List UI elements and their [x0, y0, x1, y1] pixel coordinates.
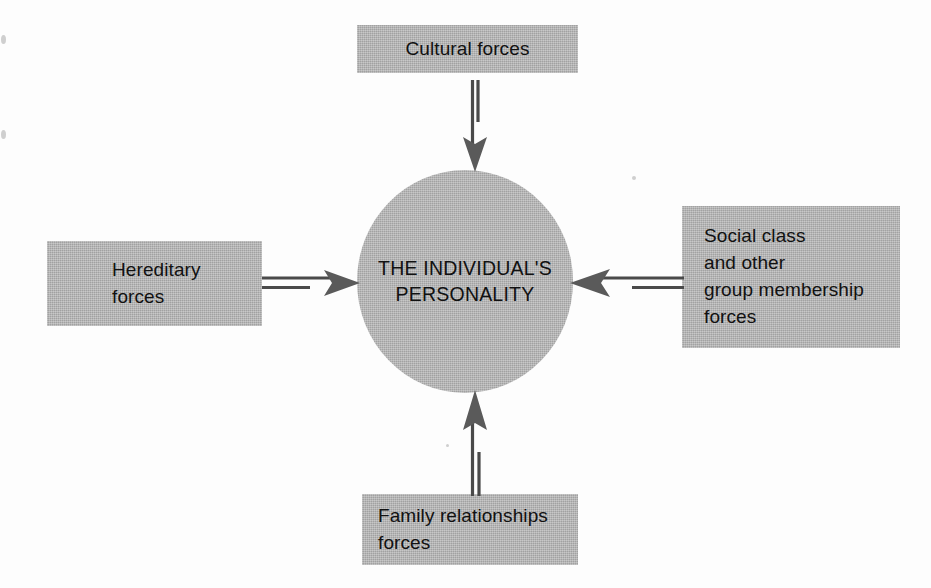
arrow-family-to-center: [455, 390, 495, 496]
arrow-social-to-center: [570, 262, 684, 304]
node-hereditary-forces[interactable]: Hereditary forces: [47, 241, 262, 326]
scan-speck: [1, 130, 6, 139]
node-social-class-forces[interactable]: Social class and other group membership …: [682, 206, 900, 348]
scan-speck: [632, 176, 636, 180]
node-central-personality[interactable]: THE INDIVIDUAL'S PERSONALITY: [357, 170, 573, 393]
node-family-relationships-forces[interactable]: Family relationships forces: [362, 494, 578, 565]
scan-speck: [1, 35, 6, 44]
node-social-class-forces-label: Social class and other group membership …: [704, 223, 900, 331]
diagram-canvas: Cultural forces Hereditary forces Social…: [0, 0, 931, 588]
node-cultural-forces-label: Cultural forces: [406, 36, 530, 63]
scan-speck: [446, 444, 449, 447]
node-family-relationships-forces-label: Family relationships forces: [378, 503, 578, 557]
node-cultural-forces[interactable]: Cultural forces: [357, 25, 578, 73]
node-central-personality-label: THE INDIVIDUAL'S PERSONALITY: [378, 256, 552, 307]
arrow-hereditary-to-center: [262, 262, 360, 304]
node-hereditary-forces-label: Hereditary forces: [112, 257, 262, 311]
arrow-cultural-to-center: [455, 80, 495, 172]
